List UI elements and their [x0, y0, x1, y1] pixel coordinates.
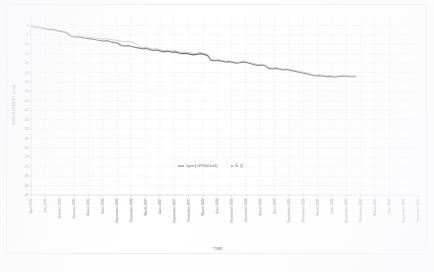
x-axis-ticks: April 2015July 2015October 2015January 2…	[29, 195, 420, 223]
x-tick-label: March 2018	[201, 198, 205, 216]
x-tick-label: December 2020	[359, 198, 363, 222]
y-tick-label: -10	[24, 42, 29, 46]
x-tick-label: April 2015	[29, 198, 33, 213]
chart-canvas: 0-5-10-15-20-25-30-35-40-45-50-55-60-65-…	[0, 0, 434, 272]
x-tick-label: June 2016	[101, 198, 105, 214]
y-tick-label: -85	[24, 184, 29, 188]
x-tick-label: September 2017	[172, 198, 176, 223]
y-tick-label: -5	[26, 33, 29, 37]
x-tick-label: March 2020	[316, 198, 320, 216]
y-tick-label: -80	[24, 174, 29, 178]
legend: 1gnrc( I-PIVI(6i3va3) SI. (I)	[178, 164, 243, 168]
y-tick-label: -45	[24, 108, 29, 112]
x-tick-label: September 2021	[402, 198, 406, 223]
chart-page: 0-5-10-15-20-25-30-35-40-45-50-55-60-65-…	[0, 0, 434, 272]
y-tick-label: -25	[24, 71, 29, 75]
x-tick-label: November 2021	[416, 198, 420, 222]
x-tick-label: June 2021	[387, 198, 391, 214]
x-tick-label: September 2016	[115, 198, 119, 223]
y-tick-label: -90	[24, 193, 29, 197]
y-tick-label: -50	[24, 118, 29, 122]
data-series	[31, 26, 355, 77]
x-tick-label: March 2016	[86, 198, 90, 216]
x-tick-label: December 2019	[301, 198, 305, 222]
x-tick-label: December 2017	[187, 198, 191, 222]
series-line	[31, 26, 355, 77]
x-tick-label: July 2015	[43, 198, 47, 213]
x-axis-title: TIME	[213, 247, 223, 251]
legend-label-1: SI. (I)	[235, 164, 243, 168]
y-tick-label: 0	[27, 24, 29, 28]
x-tick-label: December 2018	[244, 198, 248, 222]
x-tick-label: June 2020	[330, 198, 334, 214]
y-tick-label: -55	[24, 127, 29, 131]
y-axis-title: DISPLACEMENT (mm)	[12, 84, 16, 125]
y-tick-label: -60	[24, 137, 29, 141]
x-tick-label: October 2015	[58, 198, 62, 218]
y-tick-label: -20	[24, 61, 29, 65]
x-tick-label: March 2021	[373, 198, 377, 216]
x-tick-label: March 2017	[144, 198, 148, 216]
x-tick-label: June 2017	[158, 198, 162, 214]
x-tick-label: January 2016	[72, 198, 76, 218]
y-tick-label: -30	[24, 80, 29, 84]
x-tick-label: September 2019	[287, 198, 291, 223]
series-line	[31, 26, 355, 76]
y-tick-label: -15	[24, 52, 29, 56]
gridlines	[31, 16, 418, 195]
x-tick-label: September 2018	[230, 198, 234, 223]
chart-svg: 0-5-10-15-20-25-30-35-40-45-50-55-60-65-…	[0, 0, 434, 272]
legend-label-0: 1gnrc( I-PIVI(6i3va3)	[186, 164, 218, 168]
y-tick-label: -75	[24, 165, 29, 169]
y-tick-label: -70	[24, 155, 29, 159]
x-tick-label: December 2016	[129, 198, 133, 222]
y-tick-label: -35	[24, 89, 29, 93]
x-tick-label: March 2019	[258, 198, 262, 216]
x-tick-label: June 2019	[273, 198, 277, 214]
y-tick-label: -40	[24, 99, 29, 103]
legend-dot-marker	[231, 165, 233, 167]
y-axis-ticks: 0-5-10-15-20-25-30-35-40-45-50-55-60-65-…	[24, 24, 31, 198]
x-tick-label: June 2018	[215, 198, 219, 214]
y-tick-label: -65	[24, 146, 29, 150]
x-tick-label: September 2020	[344, 198, 348, 223]
